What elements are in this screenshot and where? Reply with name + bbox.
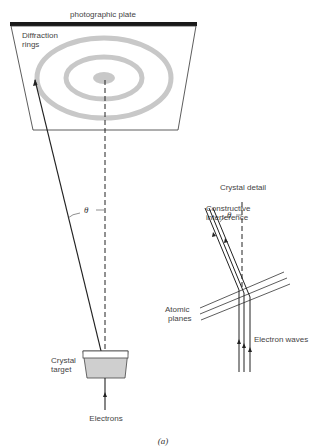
wave-arrowhead-3: [248, 347, 252, 352]
photographic-plate-bar: [10, 22, 197, 26]
diffraction-diagram: photographic plate Diffraction rings θ C…: [0, 0, 326, 448]
theta-symbol-detail: θ: [227, 210, 232, 220]
plate-label: photographic plate: [70, 10, 136, 19]
electron-waves-label: Electron waves: [254, 335, 308, 344]
incident-beam-arrowhead: [103, 392, 107, 397]
electrons-label: Electrons: [89, 414, 122, 423]
atomic-planes-label-2: planes: [168, 314, 192, 323]
wave-arrowhead-2: [242, 343, 246, 348]
figure-caption: (a): [158, 436, 169, 446]
central-spot: [93, 72, 115, 84]
diffraction-rings-label-2: rings: [22, 40, 39, 49]
atomic-planes-label-1: Atomic: [165, 305, 189, 314]
crystal-target-label-1: Crystal: [51, 356, 76, 365]
crystal-detail-title: Crystal detail: [220, 183, 266, 192]
crystal-top-face: [83, 351, 128, 358]
diffraction-rings-label-1: Diffraction: [22, 31, 58, 40]
theta-symbol-main: θ: [84, 205, 89, 215]
wave-arrowhead-1: [237, 339, 241, 344]
electron-wave-1: [205, 208, 239, 372]
crystal-target-label-2: target: [51, 365, 72, 374]
theta-arc-main: [68, 213, 80, 218]
